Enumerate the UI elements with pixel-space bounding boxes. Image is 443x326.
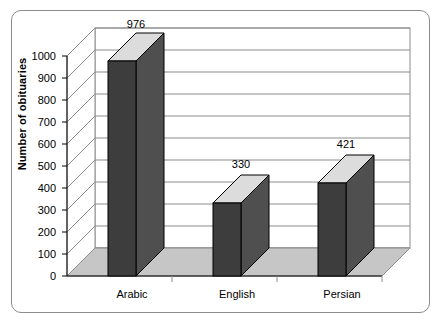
chart-container: Number of obituaries 1000 900 800 700 60…	[0, 0, 443, 326]
value-label-english: 330	[215, 158, 267, 170]
value-label-arabic: 976	[110, 18, 162, 30]
category-label-english: English	[197, 288, 277, 300]
ytick-label-400: 400	[14, 182, 56, 194]
side-wall	[67, 28, 95, 276]
value-label-persian: 421	[320, 138, 372, 150]
category-label-persian: Persian	[302, 288, 382, 300]
bar-persian-front	[318, 183, 346, 276]
ytick-label-700: 700	[14, 116, 56, 128]
bar-arabic-front	[108, 61, 136, 276]
bar-arabic-side	[136, 33, 164, 276]
ytick-label-0: 0	[14, 270, 56, 282]
ytick-label-1000: 1000	[14, 50, 56, 62]
bar-arabic[interactable]	[108, 33, 164, 276]
x-axis	[67, 276, 382, 282]
ytick-label-500: 500	[14, 160, 56, 172]
ytick-label-300: 300	[14, 204, 56, 216]
bar-english-front	[213, 203, 241, 276]
ytick-label-200: 200	[14, 226, 56, 238]
y-axis	[62, 56, 67, 276]
ytick-label-800: 800	[14, 94, 56, 106]
ytick-label-100: 100	[14, 248, 56, 260]
category-label-arabic: Arabic	[92, 288, 172, 300]
ytick-label-600: 600	[14, 138, 56, 150]
ytick-label-900: 900	[14, 72, 56, 84]
